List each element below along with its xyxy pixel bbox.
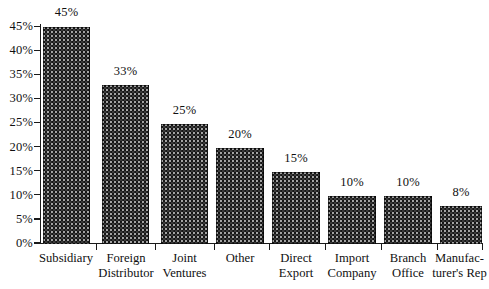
- category-label-subsidiary: Subsidiary: [31, 251, 101, 266]
- y-axis-tick-45: [34, 26, 41, 27]
- y-axis-label-5: 5%: [0, 213, 33, 226]
- y-axis-label-45: 45%: [0, 20, 33, 33]
- bar-other: [216, 148, 264, 244]
- y-axis-line: [40, 24, 41, 244]
- y-axis-tick-25: [34, 122, 41, 123]
- bar-import-company: [328, 196, 376, 244]
- bar-chart: 45% 40% 35% 30% 25% 20% 15% 10% 5% 0% 45…: [0, 0, 489, 289]
- y-axis-tick-5: [34, 218, 41, 219]
- bar-value-branch-office: 10%: [384, 176, 432, 189]
- category-label-other: Other: [211, 251, 269, 266]
- y-axis-label-20: 20%: [0, 141, 33, 154]
- x-axis-tick-2: [155, 244, 156, 250]
- y-axis-label-30: 30%: [0, 92, 33, 105]
- bar-manufacturers-rep: [440, 206, 482, 244]
- bar-value-manufacturers-rep: 8%: [438, 186, 484, 199]
- y-axis-label-10: 10%: [0, 189, 33, 202]
- category-label-foreign-distributor: Foreign Distributor: [93, 251, 159, 281]
- y-axis-tick-10: [34, 194, 41, 195]
- bar-value-joint-ventures: 25%: [161, 104, 208, 117]
- x-axis-tick-7: [437, 244, 438, 250]
- y-axis-tick-35: [34, 74, 41, 75]
- y-axis-label-15: 15%: [0, 165, 33, 178]
- bar-value-subsidiary: 45%: [43, 6, 90, 19]
- category-label-branch-office: Branch Office: [380, 251, 436, 281]
- bar-joint-ventures: [161, 124, 208, 244]
- bar-value-foreign-distributor: 33%: [102, 65, 149, 78]
- y-axis-tick-0: [34, 242, 41, 243]
- y-axis-tick-15: [34, 170, 41, 171]
- bar-foreign-distributor: [102, 85, 149, 244]
- y-axis-tick-30: [34, 98, 41, 99]
- bar-value-import-company: 10%: [328, 176, 376, 189]
- category-label-import-company: Import Company: [320, 251, 384, 281]
- bar-subsidiary: [43, 27, 90, 244]
- y-axis-label-0: 0%: [0, 237, 33, 250]
- category-label-manufacturers-rep: Manufac- turer's Rep: [430, 251, 489, 281]
- bar-value-other: 20%: [216, 128, 264, 141]
- x-axis-tick-4: [269, 244, 270, 250]
- y-axis-label-25: 25%: [0, 116, 33, 129]
- x-axis-tick-1: [96, 244, 97, 250]
- x-axis-tick-6: [381, 244, 382, 250]
- y-axis-label-35: 35%: [0, 68, 33, 81]
- bar-direct-export: [272, 172, 320, 244]
- y-axis-tick-20: [34, 146, 41, 147]
- y-axis-label-40: 40%: [0, 44, 33, 57]
- category-label-direct-export: Direct Export: [266, 251, 326, 281]
- x-axis-tick-3: [214, 244, 215, 250]
- y-axis-tick-40: [34, 50, 41, 51]
- bar-branch-office: [384, 196, 432, 244]
- x-axis-tick-5: [325, 244, 326, 250]
- bar-value-direct-export: 15%: [272, 152, 320, 165]
- x-axis-tick-8: [482, 244, 483, 250]
- category-label-joint-ventures: Joint Ventures: [153, 251, 216, 281]
